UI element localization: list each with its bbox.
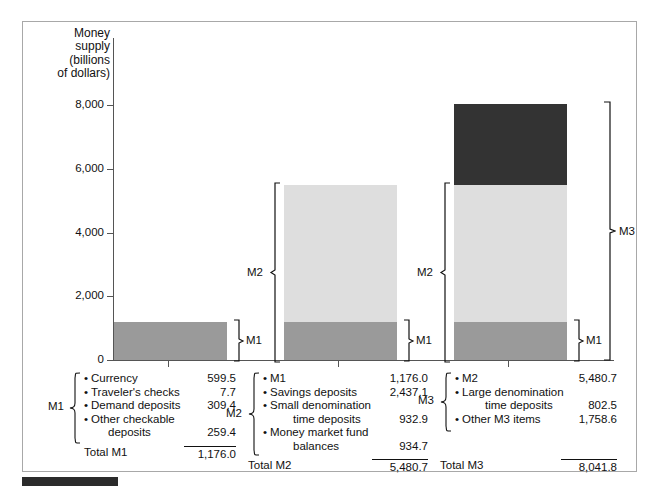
y-axis-title: Money supply (billions of dollars) — [24, 27, 110, 81]
legend-m3-item-1: • Large denomination — [455, 386, 617, 400]
legend-m1: M1 • Currency 599.5 • Traveler's checks … — [48, 368, 238, 458]
y-tick-label-2000: 2,000 — [75, 290, 104, 301]
legend-m2-brace — [247, 372, 261, 457]
y-axis-title-line-3: (billions — [24, 54, 110, 67]
bar-m3-segment-m3 — [454, 104, 567, 185]
legend-m1-total-label: Total M1 — [84, 446, 127, 458]
y-tick-label-8000: 8,000 — [75, 99, 104, 110]
legend-m2-label: M2 — [226, 407, 242, 419]
legend-m1-item-3-text: Other checkable — [91, 413, 175, 425]
legend-m2-item-0: • M1 1,176.0 — [263, 372, 428, 386]
y-tick-mark-6000 — [107, 169, 114, 170]
bullet-icon: • — [263, 372, 267, 384]
y-tick-label-0: 0 — [98, 354, 104, 365]
x-tick-mark-m3 — [508, 360, 509, 367]
y-tick-label-6000: 6,000 — [75, 163, 104, 174]
legend-m2-item-3-text: time deposits — [293, 413, 361, 425]
bar-m2-segment-m2 — [284, 185, 397, 322]
legend-m2-item-2: • Small denomination — [263, 399, 428, 413]
chart-figure: Money supply (billions of dollars) 8,000… — [0, 0, 660, 489]
y-tick-label-4000: 4,000 — [75, 227, 104, 238]
bar-m1-segment-m1 — [114, 322, 227, 360]
legend-m2-item-4-text: Money market fund — [270, 426, 368, 438]
legend-m1-label: M1 — [48, 400, 64, 412]
y-axis-line — [113, 38, 114, 361]
legend-m2-item-3: time deposits 932.9 — [263, 413, 428, 427]
bullet-icon: • — [455, 386, 459, 398]
bracket-bar-m3-m2 — [439, 181, 453, 364]
y-tick-mark-4000 — [107, 233, 114, 234]
bar-m2-segment-m1 — [284, 322, 397, 360]
bracket-bar-m3-m3 — [600, 100, 616, 364]
legend-m2-item-1: • Savings deposits 2,437.1 — [263, 386, 428, 400]
legend-m3-item-2-text: time deposits — [485, 399, 553, 411]
legend-m2-item-1-text: Savings deposits — [270, 386, 357, 398]
bullet-icon: • — [263, 426, 267, 438]
bullet-icon: • — [455, 372, 459, 384]
bullet-icon: • — [84, 386, 88, 398]
x-tick-mark-m1 — [168, 360, 169, 367]
y-tick-mark-0 — [107, 360, 114, 361]
legend-m3-item-0-text: M2 — [462, 372, 478, 384]
legend-m1-item-2: • Demand deposits 309.4 — [84, 399, 236, 413]
figure-caption-bar — [22, 477, 118, 486]
legend-m2: M2 • M1 1,176.0 • Savings deposits 2,437… — [226, 368, 431, 468]
legend-m2-item-0-text: M1 — [270, 372, 286, 384]
legend-m3-total-value: 8,041.8 — [561, 459, 617, 473]
legend-m3-item-0: • M2 5,480.7 — [455, 372, 617, 386]
bracket-bar-m1-m1 — [231, 318, 245, 364]
legend-m1-brace — [68, 372, 82, 444]
legend-m3-item-1-text: Large denomination — [462, 386, 564, 398]
y-tick-mark-8000 — [107, 105, 114, 106]
bullet-icon: • — [263, 399, 267, 411]
x-axis-line — [113, 360, 614, 361]
legend-m1-item-1-text: Traveler's checks — [91, 386, 180, 398]
legend-m1-item-0-text: Currency — [91, 372, 138, 384]
bar-m2 — [284, 185, 397, 360]
legend-m2-item-5-text: balances — [293, 440, 339, 452]
legend-m1-item-4: deposits 259.4 — [84, 426, 236, 440]
legend-m3-brace — [439, 372, 453, 432]
legend-m2-total-label: Total M2 — [248, 459, 291, 471]
legend-m3-item-2-value: 802.5 — [565, 399, 617, 411]
bar-m3-segment-m2 — [454, 185, 567, 322]
legend-m3-item-3-value: 1,758.6 — [565, 413, 617, 425]
legend-m1-item-4-text: deposits — [108, 426, 151, 438]
bracket-bar-m2-m1 — [401, 318, 415, 364]
legend-m2-item-5: balances 934.7 — [263, 440, 428, 454]
y-tick-mark-2000 — [107, 296, 114, 297]
bracket-label-bar-m2-m2: M2 — [247, 266, 263, 278]
bullet-icon: • — [84, 372, 88, 384]
bracket-bar-m3-m1 — [571, 318, 585, 364]
legend-m3-item-3-text: Other M3 items — [462, 413, 541, 425]
y-axis-title-line-2: supply — [24, 40, 110, 53]
legend-m3-item-2: time deposits 802.5 — [455, 399, 617, 413]
bullet-icon: • — [263, 386, 267, 398]
legend-m3-item-0-value: 5,480.7 — [565, 372, 617, 384]
legend-m3-label: M3 — [418, 394, 434, 406]
legend-m2-item-2-text: Small denomination — [270, 399, 371, 411]
legend-m1-item-0: • Currency 599.5 — [84, 372, 236, 386]
bar-m3-segment-m1 — [454, 322, 567, 360]
bullet-icon: • — [455, 413, 459, 425]
bar-m1 — [114, 322, 227, 360]
bar-m3 — [454, 104, 567, 360]
bracket-label-bar-m1-m1: M1 — [246, 334, 262, 346]
legend-m3: M3 • M2 5,480.7 • Large denomination tim… — [418, 368, 618, 468]
x-tick-mark-m2 — [338, 360, 339, 367]
legend-m2-item-4: • Money market fund — [263, 426, 428, 440]
bracket-bar-m2-m2 — [269, 181, 283, 364]
legend-m3-item-3: • Other M3 items 1,758.6 — [455, 413, 617, 427]
bracket-label-bar-m3-m3: M3 — [619, 225, 635, 237]
bracket-label-bar-m3-m2: M2 — [417, 266, 433, 278]
legend-m1-item-1: • Traveler's checks 7.7 — [84, 386, 236, 400]
y-axis-title-line-4: of dollars) — [24, 67, 110, 80]
bullet-icon: • — [84, 399, 88, 411]
legend-m1-item-3: • Other checkable — [84, 413, 236, 427]
legend-m1-item-2-text: Demand deposits — [91, 399, 181, 411]
bracket-label-bar-m2-m1: M1 — [416, 334, 432, 346]
legend-m3-total-label: Total M3 — [440, 459, 483, 471]
bullet-icon: • — [84, 413, 88, 425]
y-axis-title-line-1: Money — [24, 27, 110, 40]
